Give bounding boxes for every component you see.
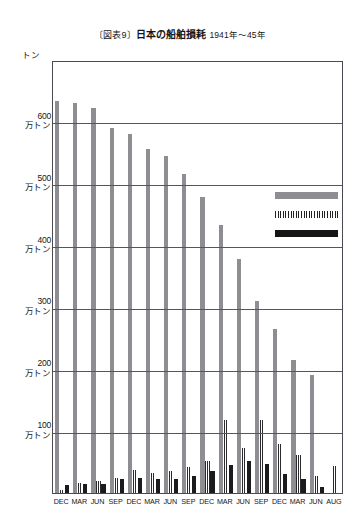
gridline-200 xyxy=(53,371,342,372)
bar-built xyxy=(65,485,69,493)
bar-group xyxy=(71,62,89,493)
bar-built xyxy=(192,476,196,493)
y-tick-unit: 万トン xyxy=(5,245,51,255)
x-tick-mar-9: MAR xyxy=(216,497,234,506)
y-tick-100: 100万トン xyxy=(5,421,51,440)
bar-sunk xyxy=(151,473,155,493)
bar-group xyxy=(53,62,71,493)
legend-swatch-hold-icon xyxy=(275,192,338,199)
bar-hold xyxy=(91,108,95,493)
bar-group xyxy=(235,62,253,493)
title-subtitle: 1941年～45年 xyxy=(209,30,265,40)
bar-built xyxy=(210,471,214,493)
x-tick-jun-14: JUN xyxy=(307,497,325,506)
bar-group xyxy=(144,62,162,493)
bar-built xyxy=(138,478,142,493)
page-title: 〔図表9〕日本の船舶損耗1941年～45年 xyxy=(0,26,360,41)
x-axis-tick-labels: DECMARJUNSEPDECMARJUNSEPDECMARJUNSEPDECM… xyxy=(52,497,343,511)
bar-hold xyxy=(73,103,77,493)
bar-group xyxy=(253,62,271,493)
legend-swatch-built-icon xyxy=(275,230,338,237)
y-tick-unit: 万トン xyxy=(5,121,51,131)
bar-built xyxy=(320,487,324,493)
x-tick-dec-4: DEC xyxy=(125,497,143,506)
x-tick-mar-1: MAR xyxy=(70,497,88,506)
y-tick-unit: 万トン xyxy=(5,369,51,379)
gridline-600 xyxy=(53,123,342,124)
legend-swatch-sunk-icon xyxy=(275,211,338,218)
bar-sunk xyxy=(169,471,173,493)
bar-group xyxy=(217,62,235,493)
bar-hold xyxy=(182,174,186,493)
y-tick-300: 300万トン xyxy=(5,297,51,316)
bar-group xyxy=(162,62,180,493)
x-tick-sep-11: SEP xyxy=(252,497,270,506)
bar-built xyxy=(174,479,178,493)
bar-group xyxy=(180,62,198,493)
bar-group xyxy=(308,62,326,493)
x-tick-jun-10: JUN xyxy=(234,497,252,506)
y-tick-200: 200万トン xyxy=(5,359,51,378)
bar-hold xyxy=(200,197,204,493)
bar-group xyxy=(126,62,144,493)
bar-sunk xyxy=(205,461,209,493)
bar-sunk xyxy=(260,420,264,493)
bar-built xyxy=(120,479,124,493)
bar-built xyxy=(247,461,251,493)
bar-hold xyxy=(255,301,259,493)
bar-hold xyxy=(146,149,150,493)
y-axis-unit-label: トン xyxy=(22,48,40,60)
bar-built xyxy=(283,474,287,493)
bar-hold xyxy=(110,128,114,493)
gridline-400 xyxy=(53,247,342,248)
plot-area: 保有量 沈没量 建造量 xyxy=(52,61,343,494)
y-tick-unit: 万トン xyxy=(5,431,51,441)
bar-sunk xyxy=(242,448,246,493)
x-tick-sep-7: SEP xyxy=(179,497,197,506)
bar-sunk xyxy=(96,481,100,493)
legend-item-built: 建造量 xyxy=(243,226,343,245)
legend-item-hold: 保有量 xyxy=(243,188,343,207)
bar-sunk xyxy=(315,476,319,493)
bar-group xyxy=(199,62,217,493)
bar-sunk xyxy=(278,444,282,493)
bar-sunk xyxy=(187,467,191,493)
gridline-300 xyxy=(53,309,342,310)
bar-group xyxy=(271,62,289,493)
bar-sunk xyxy=(60,490,64,493)
bar-built xyxy=(265,464,269,493)
x-tick-aug-15: AUG xyxy=(325,497,343,506)
title-bracket: 〔図表9〕 xyxy=(94,30,136,40)
legend-item-sunk: 沈没量 xyxy=(243,207,343,226)
y-tick-unit: 万トン xyxy=(5,307,51,317)
bar-group xyxy=(326,62,343,493)
bars-layer xyxy=(53,62,342,493)
bar-hold xyxy=(310,375,314,493)
x-tick-dec-12: DEC xyxy=(270,497,288,506)
x-tick-mar-5: MAR xyxy=(143,497,161,506)
bar-hold xyxy=(55,101,59,493)
bar-hold xyxy=(237,259,241,493)
x-tick-dec-0: DEC xyxy=(52,497,70,506)
bar-group xyxy=(108,62,126,493)
bar-hold xyxy=(128,134,132,493)
y-tick-400: 400万トン xyxy=(5,236,51,255)
bar-hold xyxy=(273,329,277,493)
bar-hold xyxy=(164,156,168,493)
y-tick-600: 600万トン xyxy=(5,112,51,131)
gridline-100 xyxy=(53,433,342,434)
x-tick-jun-6: JUN xyxy=(161,497,179,506)
bar-sunk xyxy=(133,470,137,494)
chart-page: 〔図表9〕日本の船舶損耗1941年～45年 トン 保有量 沈没量 建造量 600… xyxy=(0,0,360,516)
bar-built xyxy=(156,479,160,493)
bar-sunk xyxy=(333,466,337,493)
bar-built xyxy=(101,484,105,493)
bar-hold xyxy=(219,225,223,493)
y-tick-unit: 万トン xyxy=(5,183,51,193)
legend: 保有量 沈没量 建造量 xyxy=(243,188,343,245)
x-tick-dec-8: DEC xyxy=(198,497,216,506)
bar-sunk xyxy=(224,420,228,493)
bar-built xyxy=(301,479,305,493)
x-tick-sep-3: SEP xyxy=(107,497,125,506)
bar-sunk xyxy=(296,455,300,493)
